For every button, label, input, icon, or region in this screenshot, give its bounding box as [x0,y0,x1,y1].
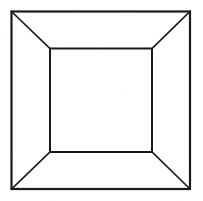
figure-canvas [0,0,203,201]
perspective-box-drawing [0,0,203,201]
